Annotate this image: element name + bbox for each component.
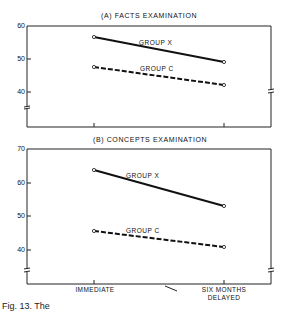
panel-a-group-x-line [92, 35, 225, 63]
panel-b-group-x-line [92, 168, 225, 207]
chart-graphics [0, 0, 293, 316]
panel-a-group-c-line [92, 65, 225, 86]
panel-a-axes [24, 26, 274, 127]
panel-b-group-c-line [92, 229, 225, 248]
panel-b-axes [24, 149, 274, 291]
figure-caption-fragment: Fig. 13. The [2, 301, 50, 311]
